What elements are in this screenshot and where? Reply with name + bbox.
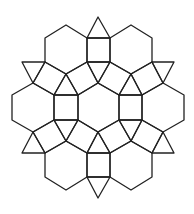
tiling-diagram <box>0 0 194 214</box>
background <box>0 0 194 214</box>
